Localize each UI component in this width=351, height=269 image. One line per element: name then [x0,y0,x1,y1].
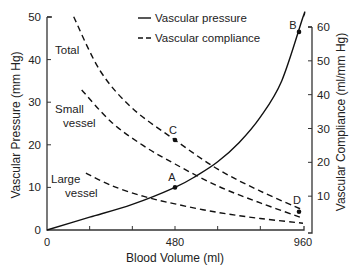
y2-tick-label: 10 [317,190,330,202]
annotation-large-vessel: Large [51,173,80,185]
point-d [297,209,302,214]
y2-axis-label: Vascular Compliance (ml/mm Hg) [334,33,348,211]
data-points: ABCD [168,19,301,214]
y2-tick-label: 50 [317,55,330,67]
right-y-axis [308,27,312,233]
point-label-c: C [169,124,177,136]
y-tick-label: 50 [28,11,41,23]
x-tick-label: 480 [166,236,184,248]
annotation-small-vessel: Small [55,103,84,115]
annotation-small-vessel-2: vessel [63,117,96,129]
legend: Vascular pressureVascular compliance [138,12,260,44]
small-vessel-curve [82,90,303,218]
legend-label: Vascular compliance [155,32,260,44]
x-axis-label: Blood Volume (ml) [126,251,224,265]
y2-tick-label: 60 [317,21,330,33]
point-b [297,30,302,35]
large-vessel-curve [86,173,303,223]
chart: 048096001020304050102030405060 ABCD Vasc… [0,0,351,269]
y2-tick-label: 30 [317,123,330,135]
y2-tick-label: 40 [317,89,330,101]
legend-label: Vascular pressure [155,12,247,24]
y-axis-label: Vascular Pressure (mm Hg) [9,51,23,198]
y-tick-label: 0 [35,224,41,236]
annotation-total: Total [55,44,79,56]
point-c [173,138,178,143]
point-label-a: A [168,171,176,183]
y-tick-label: 20 [28,139,41,151]
y2-tick-label: 20 [317,156,330,168]
x-tick-label: 0 [44,236,50,248]
y-tick-label: 40 [28,54,41,66]
x-tick-label: 960 [294,236,312,248]
point-a [173,185,178,190]
y-tick-label: 10 [28,181,41,193]
point-label-d: D [293,194,301,206]
annotation-large-vessel-2: vessel [65,187,98,199]
y-tick-label: 30 [28,96,41,108]
point-label-b: B [289,19,296,31]
